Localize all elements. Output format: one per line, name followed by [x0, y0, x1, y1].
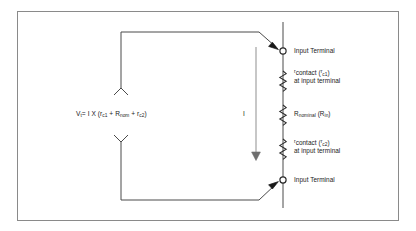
lead-break-upper-icon — [114, 88, 128, 95]
equation-term3: rc2 — [137, 110, 144, 117]
voltage-equation: Vt= I X (rc1 + Rnom + rc2) — [76, 110, 147, 118]
figure-root: Vt= I X (rc1 + Rnom + rc2) I Input Termi… — [0, 0, 416, 231]
equation-lhs-subscript: t — [80, 113, 81, 118]
component-label-rnominal: Rnominal (Rin) — [294, 110, 331, 118]
lead-break-lower-icon — [114, 135, 128, 142]
equation-term2: Rnom — [115, 110, 129, 117]
rc2-line2: at input terminal — [294, 147, 340, 155]
bottom-lead-arrowhead-icon — [269, 182, 279, 189]
equation-times: X — [91, 110, 95, 117]
component-label-rc2: rcontact (rc2) at input terminal — [294, 139, 340, 156]
equation-plus1: + — [109, 110, 113, 117]
input-terminal-bottom-label: Input Terminal — [294, 176, 335, 184]
equation-term1: rc1 — [100, 110, 107, 117]
equation-plus2: + — [131, 110, 135, 117]
current-arrow-head-icon — [252, 152, 261, 161]
input-terminal-top-node — [280, 48, 286, 54]
input-terminal-top-label: Input Terminal — [294, 47, 335, 55]
component-label-rc1: rcontact (rc1) at input terminal — [294, 69, 340, 86]
rc1-line2: at input terminal — [294, 77, 340, 85]
rc1-line1: rcontact (rc1) — [294, 69, 330, 76]
rc2-line1: rcontact (rc2) — [294, 139, 330, 146]
top-lead-arrowhead-icon — [269, 42, 279, 49]
input-terminal-bottom-node — [280, 177, 286, 183]
equation-current-symbol: I — [88, 110, 90, 117]
equation-equals: = — [82, 110, 86, 117]
circuit-diagram-svg — [0, 0, 416, 231]
current-label: I — [243, 110, 245, 118]
rnominal-line1: Rnominal (Rin) — [294, 110, 331, 117]
figure-border — [18, 12, 399, 221]
